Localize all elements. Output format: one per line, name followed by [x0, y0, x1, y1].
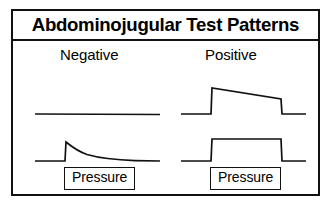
pressure-label-box-negative: Pressure: [64, 167, 135, 190]
page-title: Abdominojugular Test Patterns: [32, 15, 299, 35]
pressure-label-box-positive: Pressure: [210, 167, 281, 190]
jugular-venous-pressure-trace-positive: [181, 83, 306, 117]
jugular-venous-pressure-trace-negative: [35, 94, 160, 118]
applied-pressure-trace-positive: [181, 124, 306, 164]
title-band: Abdominojugular Test Patterns: [13, 11, 318, 41]
column-header-negative: Negative: [60, 47, 118, 62]
column-header-positive: Positive: [205, 47, 257, 62]
applied-pressure-trace-negative: [35, 124, 160, 164]
abdominojugular-test-figure: Abdominojugular Test Patterns Negative P…: [0, 0, 332, 207]
figure-frame: Abdominojugular Test Patterns Negative P…: [11, 9, 320, 196]
